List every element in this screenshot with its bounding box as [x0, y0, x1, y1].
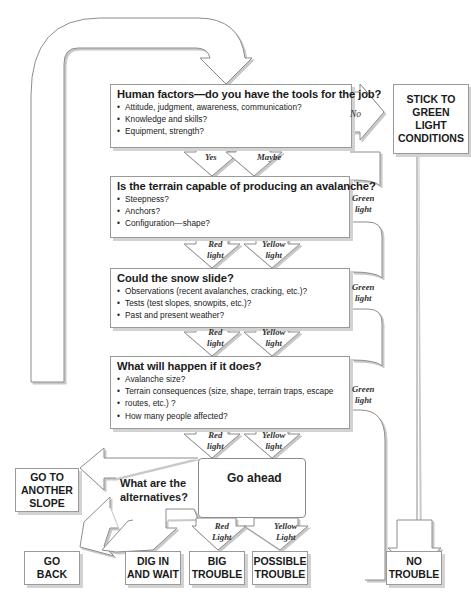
go-ahead-label: Go ahead [227, 471, 282, 485]
outcome-go-to-another-slope: GO TOANOTHERSLOPE [15, 468, 79, 512]
bullet: Past and present weather? [117, 309, 343, 321]
label-yellow-light: Yellowlight [262, 430, 285, 452]
bullet: Tests (test slopes, snowpits, etc.)? [117, 297, 343, 309]
bullet: Knowledge and skills? [117, 113, 345, 125]
outcome-no-trouble: NOTROUBLE [386, 551, 442, 585]
alternatives-label: What are thealternatives? [120, 476, 188, 504]
green-connector-2 [350, 222, 382, 278]
bullet: Equipment, strength? [117, 125, 345, 137]
bullet: Terrain consequences (size, shape, terra… [117, 385, 343, 397]
outcome-possible-trouble: POSSIBLETROUBLE [252, 551, 308, 585]
bullet: Configuration—shape? [117, 217, 343, 229]
outcome-big-trouble: BIGTROUBLE [189, 551, 245, 585]
outcome-line: CONDITIONS [398, 132, 464, 145]
label-red-light: RedLight [212, 521, 232, 543]
outcome-go-back: GOBACK [24, 551, 80, 585]
outcome-stick-to-green: STICK TO GREEN LIGHT CONDITIONS [393, 84, 469, 154]
bullet: Observations (recent avalanches, crackin… [117, 285, 343, 297]
label-yellow-light: Yellowlight [262, 239, 285, 261]
question-snow-slide: Could the snow slide? Observations (rece… [110, 268, 350, 328]
label-maybe: Maybe [257, 152, 281, 163]
label-yellow-light: Yellowlight [262, 327, 285, 349]
stick-connector [417, 154, 420, 560]
question-human-factors: Human factors—do you have the tools for … [110, 84, 352, 148]
bullet: Avalanche size? [117, 373, 343, 385]
green-connector-4 [350, 410, 385, 580]
label-green-light: Greenlight [352, 384, 374, 406]
question-terrain: Is the terrain capable of producing an a… [110, 176, 350, 238]
bullet: Anchors? [117, 205, 343, 217]
outcome-line: STICK TO [398, 93, 464, 106]
go-ahead-box [198, 458, 306, 518]
dig-in-arrow [102, 509, 198, 552]
label-yes: Yes [205, 152, 217, 163]
outcome-line: LIGHT [398, 119, 464, 132]
bullet: Steepness? [117, 193, 343, 205]
bullet-continuation: routes, etc.) ? [117, 397, 343, 409]
question-title: Could the snow slide? [117, 272, 343, 284]
question-consequences: What will happen if it does? Avalanche s… [110, 356, 350, 429]
label-yellow-light: YellowLight [274, 521, 297, 543]
label-red-light: Redlight [207, 239, 224, 261]
outcome-line: GREEN [398, 106, 464, 119]
label-green-light: Greenlight [352, 193, 374, 215]
bullet: How many people affected? [117, 410, 343, 422]
green-connector-3 [350, 309, 382, 366]
question-title: Human factors—do you have the tools for … [117, 88, 345, 100]
question-title: What will happen if it does? [117, 360, 343, 372]
outcome-dig-in-and-wait: DIG INAND WAIT [125, 551, 181, 585]
label-red-light: Redlight [207, 327, 224, 349]
label-green-light: Greenlight [352, 282, 374, 304]
bullet: Attitude, judgment, awareness, communica… [117, 101, 345, 113]
question-title: Is the terrain capable of producing an a… [117, 180, 343, 192]
label-red-light: Redlight [207, 430, 224, 452]
label-no: No [350, 109, 361, 120]
